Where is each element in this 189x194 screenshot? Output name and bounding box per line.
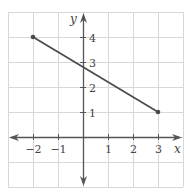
- y-tick-label: 4: [89, 32, 96, 45]
- x-tick-label: 3: [155, 143, 162, 156]
- y-tick-label: 1: [89, 107, 96, 120]
- endpoint-marker: [156, 110, 161, 115]
- y-tick-label: 2: [89, 82, 96, 95]
- endpoint-marker: [31, 35, 36, 40]
- x-tick-label: −1: [50, 143, 66, 156]
- y-tick-label: 3: [89, 57, 96, 70]
- x-tick-label: 2: [130, 143, 137, 156]
- x-tick-label: −2: [25, 143, 41, 156]
- x-axis-label: x: [174, 142, 181, 156]
- line-segment: [33, 37, 158, 112]
- y-axis-label: y: [69, 12, 77, 26]
- x-tick-label: 1: [105, 143, 112, 156]
- coordinate-plane: −2−11231234xy: [0, 0, 189, 194]
